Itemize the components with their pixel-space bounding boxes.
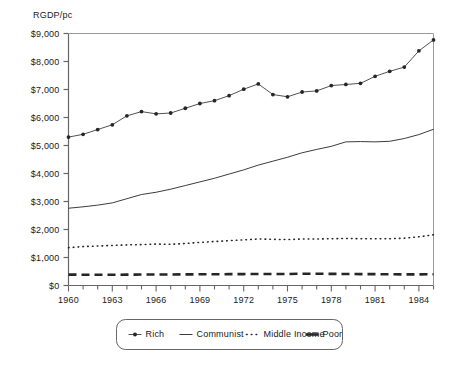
y-axis-title: RGDP/pc [33, 10, 72, 20]
x-axis-tick-label: 1975 [277, 295, 298, 305]
data-point-marker [183, 106, 187, 110]
legend-item-communist[interactable]: Communist [180, 329, 245, 339]
data-point-marker [96, 128, 100, 132]
legend-item-label: Rich [146, 329, 165, 339]
data-point-marker [373, 74, 377, 78]
data-point-marker [359, 81, 363, 85]
series-line [69, 274, 434, 275]
y-axis-tick-label: $7,000 [31, 85, 60, 95]
chart-plot-svg: $0$1,000$2,000$3,000$4,000$5,000$6,000$7… [0, 0, 457, 367]
data-point-marker [256, 82, 260, 86]
legend-item-label: Communist [197, 329, 245, 339]
data-point-marker [213, 99, 217, 103]
x-axis-tick-label: 1963 [102, 295, 123, 305]
data-point-marker [154, 112, 158, 116]
series-line [69, 235, 434, 248]
y-axis-tick-label: $6,000 [31, 113, 60, 123]
data-point-marker [198, 102, 202, 106]
chart-legend: RichCommunistMiddle IncomePoor [117, 320, 343, 350]
data-point-marker [169, 111, 173, 115]
x-axis-tick-label: 1981 [365, 295, 386, 305]
series-communist [69, 129, 434, 208]
data-point-marker [67, 135, 71, 139]
y-axis-tick-label: $1,000 [31, 253, 60, 263]
data-point-marker [417, 49, 421, 53]
x-axis-tick-group: 196019631966196919721975197819811984 [58, 286, 433, 305]
y-axis-tick-group: $0$1,000$2,000$3,000$4,000$5,000$6,000$7… [31, 29, 69, 291]
legend-item-label: Poor [323, 329, 343, 339]
data-series-group [67, 38, 436, 275]
x-axis-tick-label: 1978 [321, 295, 342, 305]
data-point-marker [344, 83, 348, 87]
plot-frame [69, 34, 434, 286]
data-point-marker [286, 95, 290, 99]
x-axis-tick-label: 1960 [58, 295, 79, 305]
y-axis-tick-label: $9,000 [31, 29, 60, 39]
data-point-marker [140, 110, 144, 114]
y-axis-tick-label: $8,000 [31, 57, 60, 67]
data-point-marker [125, 114, 129, 118]
data-point-marker [110, 123, 114, 127]
x-axis-tick-label: 1972 [233, 295, 254, 305]
y-axis-tick-label: $4,000 [31, 169, 60, 179]
series-line [69, 129, 434, 208]
data-point-marker [432, 38, 436, 42]
y-axis-tick-label: $2,000 [31, 225, 60, 235]
data-point-marker [81, 132, 85, 136]
data-point-marker [227, 94, 231, 98]
series-poor [69, 274, 434, 275]
data-point-marker [388, 69, 392, 73]
legend-marker-dot [133, 333, 137, 337]
data-point-marker [315, 89, 319, 93]
y-axis-tick-label: $0 [49, 281, 59, 291]
data-point-marker [271, 93, 275, 97]
series-rich [67, 38, 436, 139]
chart-container: RGDP/pc $0$1,000$2,000$3,000$4,000$5,000… [0, 0, 457, 367]
series-line [69, 40, 434, 137]
data-point-marker [300, 90, 304, 94]
y-axis-tick-label: $3,000 [31, 197, 60, 207]
x-axis-tick-label: 1984 [408, 295, 429, 305]
data-point-marker [242, 87, 246, 91]
x-axis-tick-label: 1966 [146, 295, 167, 305]
data-point-marker [329, 84, 333, 88]
series-middle-income [69, 235, 434, 248]
x-axis-tick-label: 1969 [189, 295, 210, 305]
legend-item-rich[interactable]: Rich [129, 329, 165, 339]
data-point-marker [402, 65, 406, 69]
y-axis-tick-label: $5,000 [31, 141, 60, 151]
